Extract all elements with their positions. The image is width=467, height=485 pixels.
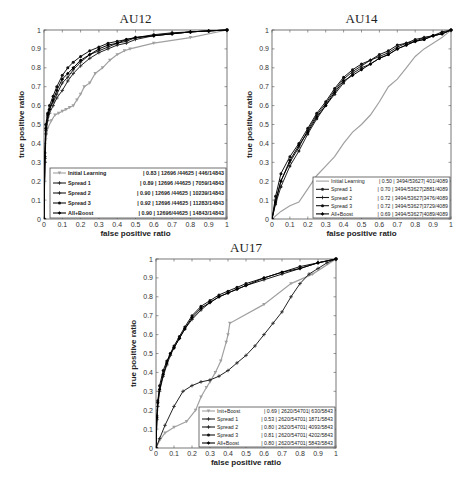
x-tick-label: 0.5 [241,450,251,457]
y-tick-label: 0.3 [259,159,269,166]
x-tick-label: 0.8 [410,221,420,228]
y-tick-label: 0 [265,216,269,223]
y-tick-label: 0.9 [31,45,41,52]
legend-entry-stats: | 0.69 | 3494/53627|4089/4089 [378,211,449,217]
y-tick-label: 1 [37,27,41,34]
dot-marker [207,434,210,437]
dot-marker [333,87,336,90]
dot-marker [369,59,372,62]
x-tick-label: 0.5 [357,221,367,228]
x-tick-label: 0.6 [149,221,159,228]
chart-title: AU17 [230,240,262,255]
y-tick-label: 0.8 [143,293,153,300]
legend-entry-stats: | 0.92 | 12696 /44625 | 11283/14843 [137,200,224,206]
y-tick-label: 0.4 [259,140,269,147]
x-tick-label: 0.2 [76,221,86,228]
x-tick-label: 0.9 [313,450,323,457]
legend-entry-stats: | 0.50 | 3494/53627| 401/4089 [379,178,448,184]
y-tick-label: 0.7 [143,312,153,319]
x-tick-label: 0.3 [94,221,104,228]
dot-marker [324,100,327,103]
legend-entry-name: Spread 1 [331,186,352,192]
dot-marker [72,61,75,64]
legend-entry-name: Init+Boost [217,408,241,414]
x-tick-label: 1 [334,450,338,457]
dot-marker [360,63,363,66]
legend-entry-name: Spread 1 [68,180,91,186]
chart-au12: AU1200.10.20.30.40.50.60.70.80.9100.10.2… [17,11,229,238]
x-tick-label: 0.4 [223,450,233,457]
legend-entry-name: Spread 3 [68,200,91,206]
y-tick-label: 0.8 [259,64,269,71]
dot-marker [387,49,390,52]
y-tick-label: 0.8 [31,64,41,71]
legend-entry-name: All+Boost [217,440,240,446]
legend-entry-name: Spread 2 [68,190,91,196]
x-tick-label: 0.1 [285,221,295,228]
dot-marker [66,66,69,69]
y-tick-label: 0.7 [31,83,41,90]
dot-marker [79,55,82,58]
x-tick-label: 1 [225,221,229,228]
legend-entry-name: Spread 2 [217,424,238,430]
y-tick-label: 0.9 [259,45,269,52]
dot-marker [279,172,282,175]
legend: Initial Learning| 0.50 | 3494/53627| 401… [313,177,450,218]
x-axis-label: false positive ratio [211,458,281,467]
dot-marker [61,74,64,77]
y-tick-label: 0.6 [143,331,153,338]
x-tick-label: 0.1 [169,450,179,457]
legend-entry-stats: | 0.80 | 2620/54701| 4093/5843 [261,424,333,430]
dot-marker [351,68,354,71]
x-tick-label: 0 [154,450,158,457]
legend-entry-stats: | 0.80 | 2620/54701| 5843/5843 [261,440,333,446]
x-axis-label: false positive ratio [326,229,396,238]
legend-entry-name: Spread 1 [217,416,238,422]
legend-entry-stats: | 0.90 | 12696 /44625 | 10239/14843 [137,190,224,196]
x-tick-label: 0.2 [187,450,197,457]
y-tick-label: 0.2 [143,407,153,414]
y-tick-label: 0.4 [143,369,153,376]
y-tick-label: 0.5 [143,350,153,357]
legend-entry-name: Spread 2 [331,195,352,201]
dot-marker [378,53,381,56]
x-tick-label: 0.5 [131,221,141,228]
y-tick-label: 0.5 [259,121,269,128]
dot-marker [306,127,309,130]
y-tick-label: 0.9 [143,274,153,281]
y-tick-label: 0 [149,445,153,452]
x-tick-label: 0.4 [339,221,349,228]
x-tick-label: 0.7 [392,221,402,228]
legend-entry-name: Spread 3 [331,203,352,209]
legend-entry-name: Initial Learning [68,170,106,176]
legend-entry-name: All+Boost [331,211,354,217]
x-tick-label: 0.4 [112,221,122,228]
y-tick-label: 0.1 [31,197,41,204]
x-tick-label: 0.8 [186,221,196,228]
chart-title: AU14 [346,11,378,26]
y-tick-label: 0.7 [259,83,269,90]
legend-entry-stats: | 0.83 | 12696 /44625 | 446/14843 [143,170,224,176]
y-tick-label: 0.6 [31,102,41,109]
legend-entry-name: Spread 3 [217,432,238,438]
legend-entry-stats: | 0.72 | 3494/53627|3729/4089 [378,203,449,209]
legend-entry-stats: | 0.70 | 3494/53627|2881/4089 [378,186,449,192]
legend-entry-name: All+Boost [68,210,94,216]
legend: Init+Boost| 0.69 | 2620/54701| 630/5843S… [199,407,335,447]
legend-entry-stats: | 0.53 | 2620/54701| 1871/5843 [261,416,333,422]
legend-entry-stats: | 0.81 | 2620/54701| 4202/5843 [261,432,333,438]
x-tick-label: 0.6 [259,450,269,457]
x-tick-label: 0.7 [167,221,177,228]
x-tick-label: 1 [449,221,453,228]
x-tick-label: 0.6 [375,221,385,228]
chart-au17: AU1700.10.20.30.40.50.60.70.80.9100.10.2… [129,240,338,467]
y-tick-label: 0.6 [259,102,269,109]
y-tick-label: 0.2 [31,178,41,185]
chart-title: AU12 [120,11,152,26]
dot-marker [315,112,318,115]
y-tick-label: 1 [265,27,269,34]
dot-marker [88,49,91,52]
y-tick-label: 0.5 [31,121,41,128]
y-axis-label: true positive ratio [245,91,254,158]
legend-entry-stats: | 0.69 | 2620/54701| 630/5843 [264,408,333,414]
